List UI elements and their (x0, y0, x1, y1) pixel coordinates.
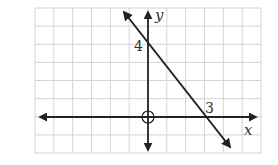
graph-line (124, 12, 230, 147)
x-intercept-label: 3 (205, 100, 214, 116)
x-axis-label: x (244, 121, 253, 139)
y-axis-label: y (154, 6, 164, 24)
coordinate-plane: y x 4 3 (0, 0, 278, 165)
y-intercept-label: 4 (134, 38, 143, 54)
